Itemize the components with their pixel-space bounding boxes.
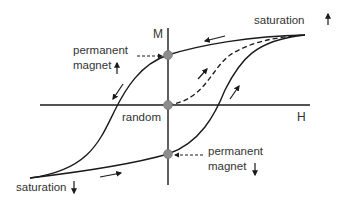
permanent-up-label-1: permanent: [73, 43, 128, 57]
arrow-upper-left: [205, 36, 225, 41]
arrow-lower-up: [230, 86, 239, 99]
random-label: random: [122, 110, 161, 124]
point-permanent-down: [164, 150, 173, 159]
saturation-up-label: saturation: [254, 13, 305, 27]
permanent-down-label-2: magnet: [208, 159, 246, 173]
h-axis-label: H: [297, 110, 306, 124]
permanent-up-label-2: magnet: [73, 58, 111, 72]
hysteresis-diagram: [0, 0, 345, 206]
arrow-lower-right: [100, 173, 121, 177]
point-permanent-up: [164, 51, 173, 60]
arrow-dashed-up-1: [198, 69, 207, 79]
permanent-down-label-1: permanent: [208, 144, 263, 158]
point-random: [164, 101, 173, 110]
m-axis-label: M: [153, 27, 163, 41]
saturation-down-label: saturation: [16, 180, 67, 194]
